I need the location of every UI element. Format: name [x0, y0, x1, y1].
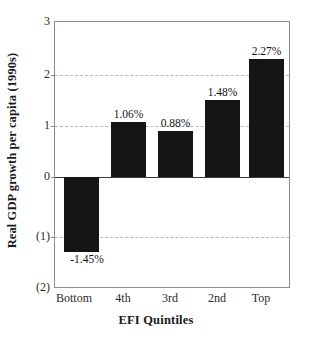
x-axis-title: EFI Quintiles — [0, 313, 312, 328]
y-tick-label: 0 — [24, 170, 50, 182]
x-tick-label-2nd: 2nd — [192, 292, 242, 305]
y-tickmark-2 — [51, 75, 55, 76]
bar-3rd — [158, 131, 193, 177]
x-tick-label-top: Top — [236, 292, 286, 305]
y-tick-label: 3 — [24, 15, 50, 27]
x-tick-label-bottom: Bottom — [44, 292, 104, 305]
y-tick-label: (1) — [24, 230, 50, 242]
y-axis-title: Real GDP growth per capita (1990s) — [0, 0, 26, 300]
bar-value-label-top: 2.27% — [239, 45, 294, 57]
bar-4th — [111, 122, 146, 177]
bar-top — [249, 59, 284, 177]
bar-2nd — [205, 100, 240, 177]
plot-area: -1.45% 1.06% 0.88% 1.48% 2.27% — [54, 21, 290, 288]
y-axis-tick-labels: 3 2 1 0 (1) (2) — [24, 0, 50, 339]
x-tick-label-3rd: 3rd — [145, 292, 195, 305]
bar-chart-figure: Real GDP growth per capita (1990s) 3 2 1… — [0, 0, 312, 339]
y-tick-label: 1 — [24, 119, 50, 131]
bar-bottom — [64, 177, 99, 252]
bar-value-label-bottom: -1.45% — [59, 253, 115, 265]
bar-value-label-3rd: 0.88% — [148, 117, 203, 129]
y-tickmark-minus-1 — [51, 237, 55, 238]
x-tick-label-4th: 4th — [98, 292, 148, 305]
y-tickmark-1 — [51, 126, 55, 127]
y-tick-label: 2 — [24, 68, 50, 80]
y-axis-title-text: Real GDP growth per capita (1990s) — [6, 52, 21, 248]
bar-value-label-2nd: 1.48% — [195, 86, 250, 98]
